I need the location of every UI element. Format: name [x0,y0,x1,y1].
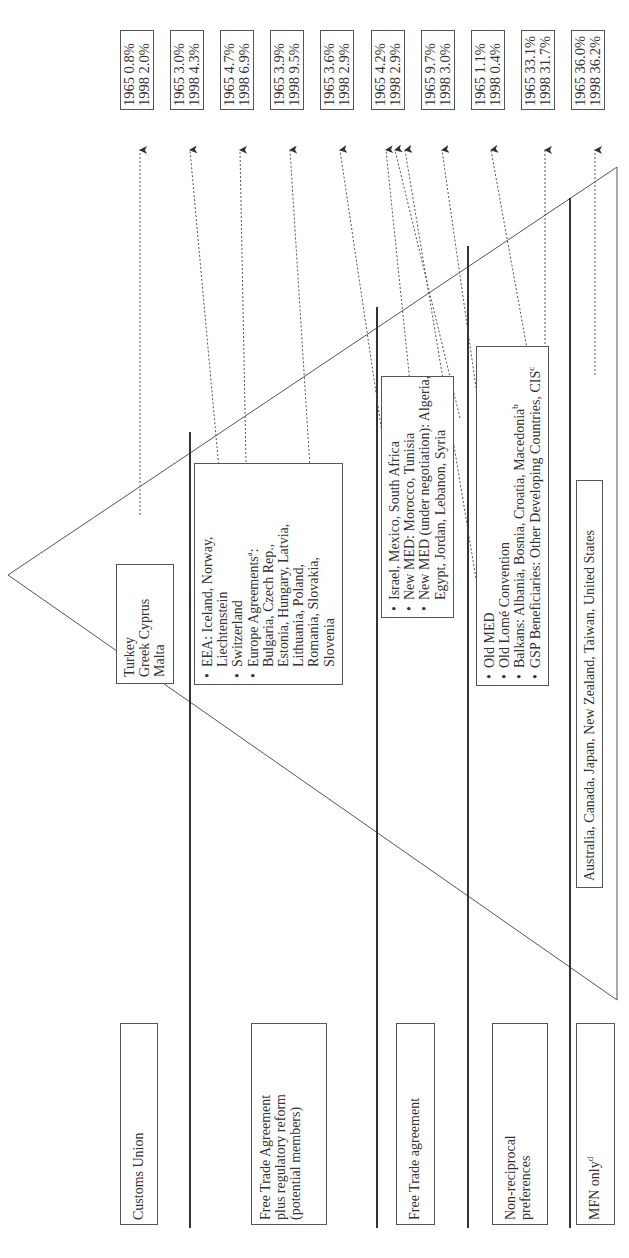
countries-mfn: Australia, Canada, Japan, New Zealand, T… [576,480,603,888]
share-box-europe-agreements: 1965 3.9% 1998 9.5% [270,30,304,110]
share-box-israel-mexico-sa: 1965 3.6% 1998 2.9% [320,30,354,110]
category-label: Free Trade Agreement [258,1028,273,1220]
category-label: preferences [518,1028,533,1220]
share-1965: 1965 1.1% [473,34,488,106]
category-fta-plus: Free Trade Agreement plus regulatory ref… [251,1023,327,1225]
list-item: Bulgaria, Czech Rep., [261,470,276,678]
countries-customs-union: Turkey Greek Cyprus Malta [116,564,174,684]
list-item: •Switzerland [230,470,245,678]
share-1998: 1998 2.9% [337,34,352,106]
country-line: Turkey [122,571,137,677]
category-label: Non-reciprocal [503,1028,518,1220]
category-label: Free Trade agreement [407,1098,422,1220]
share-1998: 1998 2.9% [388,34,403,106]
arrow-europe-agreements [290,150,313,515]
category-label: Customs Union [131,1132,146,1220]
share-1965: 1965 4.2% [373,34,388,106]
countries-fta: •Israel, Mexico, South Africa •New MED: … [381,376,454,618]
share-box-balkans: 1965 1.1% 1998 0.4% [471,30,505,110]
category-mfn: MFN onlyd [576,1023,615,1225]
category-label: (potential members) [288,1028,303,1220]
share-1965: 1965 3.9% [272,34,287,106]
share-1965: 1965 33.1% [523,34,538,106]
list-item: •New MED (under negotiation): Algeria, [417,383,432,611]
list-item: •Balkans: Albania, Bosnia, Croatia, Mace… [512,353,527,679]
share-1998: 1998 3.0% [438,34,453,106]
country-line: Greek Cyprus [137,571,152,677]
category-fta: Free Trade agreement [396,1023,435,1225]
share-1998: 1998 2.0% [137,34,152,106]
list-item: •Europe Agreementsa: [246,470,261,678]
share-1998: 1998 4.3% [187,34,202,106]
list-item: •EEA: Iceland, Norway, [200,470,215,678]
share-1965: 1965 3.0% [172,34,187,106]
list-item: Liechtenstein [215,470,230,678]
list-item: Slovenia [322,470,337,678]
arrow-eea [190,150,220,480]
countries-nonrecip: •Old MED •Old Lomé Convention •Balkans: … [476,346,549,686]
countries-fta-plus: •EEA: Iceland, Norway, Liechtenstein •Sw… [194,463,343,685]
list-item: Romania, Slovakia, [306,470,321,678]
share-1965: 1965 9.7% [423,34,438,106]
category-nonrecip: Non-reciprocal preferences [492,1023,548,1225]
list-item: Estonia, Hungary, Latvia, [276,470,291,678]
list-item: •Old MED [482,353,497,679]
share-box-med: 1965 4.2% 1998 2.9% [371,30,405,110]
share-1998: 1998 0.4% [488,34,503,106]
share-1998: 1998 36.2% [588,34,603,106]
list-item: Lithuania, Poland, [291,470,306,678]
list-item: •Old Lomé Convention [497,353,512,679]
share-1965: 1965 0.8% [122,34,137,106]
category-label: plus regulatory reform [273,1028,288,1220]
share-1998: 1998 9.5% [287,34,302,106]
country-line: Malta [152,571,167,677]
list-item: •New MED: Morocco, Tunisia [402,383,417,611]
share-box-gsp: 1965 33.1% 1998 31.7% [521,30,555,110]
list-item: Egypt, Jordan, Lebanon, Syria [433,383,448,611]
category-label: MFN only [587,1161,602,1220]
share-1965: 1965 4.7% [222,34,237,106]
share-1998: 1998 31.7% [538,34,553,106]
footnote-marker: d [585,1157,595,1162]
share-box-lome: 1965 9.7% 1998 3.0% [421,30,455,110]
share-1965: 1965 36.0% [573,34,588,106]
list-item: •Israel, Mexico, South Africa [387,383,402,611]
share-1965: 1965 3.6% [322,34,337,106]
share-box-switzerland: 1965 4.7% 1998 6.9% [220,30,254,110]
share-box-eea: 1965 3.0% 1998 4.3% [170,30,204,110]
list-item: •GSP Beneficiaries: Other Developing Cou… [528,353,543,679]
country-line: Australia, Canada, Japan, New Zealand, T… [582,530,597,881]
category-customs-union: Customs Union [120,1023,158,1225]
share-box-mfn: 1965 36.0% 1998 36.2% [571,30,605,110]
share-box-customs-union: 1965 0.8% 1998 2.0% [120,30,154,110]
share-1998: 1998 6.9% [237,34,252,106]
